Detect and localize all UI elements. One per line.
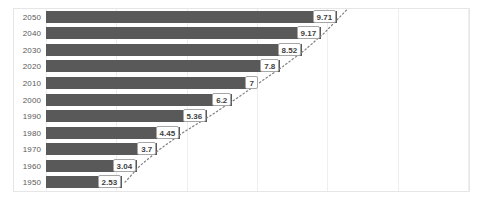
category-axis-label: 1950 [14, 175, 41, 190]
data-label: 5.36 [183, 109, 207, 122]
bar[interactable] [46, 94, 232, 106]
bar-row: 19804.45 [14, 126, 469, 141]
category-axis-label: 2010 [14, 76, 41, 91]
category-axis-label: 1990 [14, 109, 41, 124]
bar-row: 20107 [14, 76, 469, 91]
bar[interactable] [46, 27, 321, 39]
bar[interactable] [46, 11, 337, 23]
data-label: 3.04 [113, 159, 137, 172]
data-label: 9.71 [313, 10, 337, 23]
category-axis-label: 2020 [14, 59, 41, 74]
plot-area: 20509.7120409.1720308.5220207.8201072000… [14, 9, 469, 191]
bar-row: 19603.04 [14, 159, 469, 174]
data-label: 9.17 [297, 26, 321, 39]
chart-frame: 20509.7120409.1720308.5220207.8201072000… [13, 8, 470, 192]
bar-row: 19502.53 [14, 175, 469, 190]
category-axis-label: 1960 [14, 159, 41, 174]
bar-row: 19905.36 [14, 109, 469, 124]
bar-row: 20006.2 [14, 93, 469, 108]
data-label: 2.53 [98, 175, 122, 188]
data-label: 7 [245, 76, 257, 89]
bar[interactable] [46, 60, 280, 72]
category-axis-label: 1980 [14, 126, 41, 141]
data-label: 6.2 [212, 93, 231, 106]
bar-row: 19703.7 [14, 142, 469, 157]
bar-row: 20308.52 [14, 43, 469, 58]
bar-row: 20409.17 [14, 26, 469, 41]
category-axis-label: 2000 [14, 93, 41, 108]
bar-row: 20207.8 [14, 59, 469, 74]
category-axis-label: 2030 [14, 43, 41, 58]
category-axis-label: 2050 [14, 10, 41, 25]
bar[interactable] [46, 44, 302, 56]
bar[interactable] [46, 77, 256, 89]
data-label: 8.52 [278, 43, 302, 56]
data-label: 3.7 [137, 142, 156, 155]
category-axis-label: 2040 [14, 26, 41, 41]
bar-row: 20509.71 [14, 10, 469, 25]
data-label: 7.8 [260, 59, 279, 72]
category-axis-label: 1970 [14, 142, 41, 157]
data-label: 4.45 [156, 126, 180, 139]
